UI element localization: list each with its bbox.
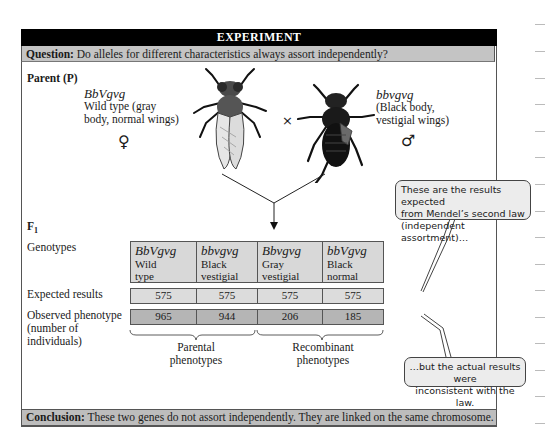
conclusion-label: Conclusion: bbox=[26, 411, 85, 423]
genotypes-row: BbVgvg Wild type bbvgvg Black vestigial … bbox=[130, 241, 384, 283]
genotype-desc-line1: Black bbox=[327, 258, 379, 270]
genotype-cell: bbVgvg Black normal bbox=[323, 242, 383, 282]
callout-line2: inconsistent with the law. bbox=[409, 385, 521, 409]
expected-value: 575 bbox=[258, 289, 323, 303]
f1-label-text: F bbox=[27, 220, 34, 232]
parental-phenotypes-label: Parental phenotypes bbox=[160, 341, 232, 367]
observed-value: 206 bbox=[258, 310, 323, 324]
f1-label-subscript: 1 bbox=[34, 226, 38, 235]
observed-label-line2: (number of bbox=[27, 322, 122, 335]
observed-value: 185 bbox=[323, 310, 383, 324]
observed-label-line1: Observed phenotype bbox=[27, 309, 122, 322]
genotype-cell: Bbvgvg Gray vestigial bbox=[258, 242, 323, 282]
f1-label: F1 bbox=[27, 220, 38, 235]
callout-line2: from Mendel’s second law bbox=[401, 208, 525, 220]
genotypes-row-label: Genotypes bbox=[27, 241, 76, 254]
genotype-name: bbvgvg bbox=[201, 244, 253, 258]
parental-label-line1: Parental bbox=[160, 341, 232, 354]
genotype-desc-line2: vestigial bbox=[201, 270, 253, 282]
expected-row-label: Expected results bbox=[27, 288, 103, 301]
observed-value: 965 bbox=[131, 310, 197, 324]
observed-value: 944 bbox=[197, 310, 258, 324]
observed-row: 965 944 206 185 bbox=[130, 309, 384, 325]
actual-results-callout: …but the actual results were inconsisten… bbox=[404, 357, 526, 387]
expected-value: 575 bbox=[131, 289, 197, 303]
callout-line1: …but the actual results were bbox=[409, 361, 521, 385]
genotype-desc-line1: Gray bbox=[262, 258, 318, 270]
genotype-desc-line2: normal bbox=[327, 270, 379, 282]
recombinant-label-line2: phenotypes bbox=[282, 354, 364, 367]
genotype-desc-line1: Wild bbox=[135, 258, 192, 270]
callout-line3: (independent assortment)… bbox=[401, 220, 525, 244]
callout-line1: These are the results expected bbox=[401, 184, 525, 208]
genotype-desc-line2: type bbox=[135, 270, 192, 282]
genotype-name: bbVgvg bbox=[327, 244, 379, 258]
genotype-cell: BbVgvg Wild type bbox=[131, 242, 197, 282]
parental-label-line2: phenotypes bbox=[160, 354, 232, 367]
genotype-desc-line1: Black bbox=[201, 258, 253, 270]
recombinant-phenotypes-label: Recombinant phenotypes bbox=[282, 341, 364, 367]
recombinant-label-line1: Recombinant bbox=[282, 341, 364, 354]
observed-label-line3: individuals) bbox=[27, 335, 122, 348]
genotype-name: BbVgvg bbox=[135, 244, 192, 258]
expected-results-callout: These are the results expected from Mend… bbox=[395, 180, 531, 220]
expected-value: 575 bbox=[323, 289, 383, 303]
genotype-name: Bbvgvg bbox=[262, 244, 318, 258]
expected-row: 575 575 575 575 bbox=[130, 288, 384, 304]
genotype-cell: bbvgvg Black vestigial bbox=[197, 242, 258, 282]
conclusion-text: These two genes do not assort independen… bbox=[85, 411, 494, 423]
genotype-desc-line2: vestigial bbox=[262, 270, 318, 282]
conclusion-band: Conclusion: These two genes do not assor… bbox=[21, 409, 497, 426]
expected-value: 575 bbox=[197, 289, 258, 303]
observed-row-label: Observed phenotype (number of individual… bbox=[27, 309, 122, 348]
